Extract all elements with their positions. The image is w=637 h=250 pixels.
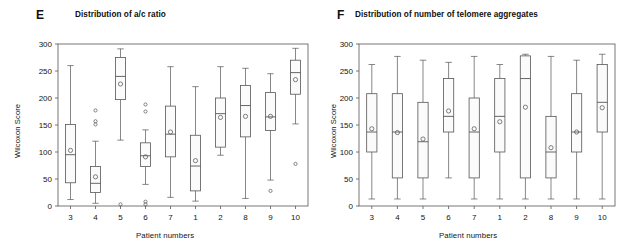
x-tick-label: 8	[243, 213, 248, 222]
x-tick-label: 9	[574, 213, 579, 222]
x-tick-label: 6	[446, 213, 451, 222]
x-tick-label: 3	[68, 213, 73, 222]
box-plot-item	[469, 56, 479, 199]
box-plot-item	[141, 103, 151, 206]
panel-f: F Distribution of number of telomere agg…	[319, 0, 637, 250]
y-tick-label: 0	[349, 202, 354, 211]
x-tick-label: 1	[193, 213, 198, 222]
box-plot-item	[367, 65, 377, 199]
box-plot-item	[191, 87, 201, 201]
box-plot-item	[166, 67, 176, 198]
y-tick-label: 150	[39, 121, 53, 130]
box-plot-item	[520, 54, 530, 199]
x-tick-label: 8	[549, 213, 554, 222]
x-tick-label: 6	[143, 213, 148, 222]
y-tick-label: 200	[39, 94, 53, 103]
x-tick-label: 5	[118, 213, 123, 222]
y-tick-label: 50	[344, 175, 353, 184]
panel-e-plot: 05010015020025030034567128910	[0, 0, 318, 250]
box-plot-item	[443, 62, 453, 178]
y-tick-label: 100	[340, 148, 354, 157]
box-plot-item	[418, 60, 428, 199]
y-tick-label: 100	[39, 148, 53, 157]
box-plot-item	[91, 109, 101, 203]
x-tick-label: 2	[218, 213, 223, 222]
x-tick-label: 1	[498, 213, 503, 222]
y-tick-label: 50	[43, 175, 52, 184]
x-tick-label: 4	[395, 213, 400, 222]
x-tick-label: 2	[523, 213, 528, 222]
box-plot-item	[266, 74, 276, 193]
box-plot-item	[546, 56, 556, 199]
box-plot-item	[241, 68, 251, 198]
panel-f-plot: 05010015020025030034567128910	[319, 0, 637, 250]
x-tick-label: 3	[370, 213, 375, 222]
y-tick-label: 300	[340, 40, 354, 49]
y-tick-label: 250	[340, 67, 354, 76]
x-tick-label: 7	[472, 213, 477, 222]
x-tick-label: 10	[598, 213, 607, 222]
box-plot-item	[291, 48, 301, 165]
x-tick-label: 5	[421, 213, 426, 222]
box-plot-item	[66, 66, 76, 200]
box-plot-item	[495, 65, 505, 199]
y-tick-label: 250	[39, 67, 53, 76]
x-tick-label: 4	[93, 213, 98, 222]
y-tick-label: 300	[39, 40, 53, 49]
box-plot-item	[216, 67, 226, 156]
box-plot-item	[597, 54, 607, 199]
box-plot-item	[392, 56, 402, 199]
panel-e: E Distribution of a/c ratio Wilcoxon Sco…	[0, 0, 318, 250]
y-tick-label: 200	[340, 94, 354, 103]
box-plot-item	[571, 60, 581, 199]
figure-container: E Distribution of a/c ratio Wilcoxon Sco…	[0, 0, 637, 250]
y-tick-label: 0	[48, 202, 53, 211]
x-tick-label: 9	[268, 213, 273, 222]
x-tick-label: 7	[168, 213, 173, 222]
x-tick-label: 10	[291, 213, 300, 222]
y-tick-label: 150	[340, 121, 354, 130]
box-plot-item	[116, 49, 126, 206]
